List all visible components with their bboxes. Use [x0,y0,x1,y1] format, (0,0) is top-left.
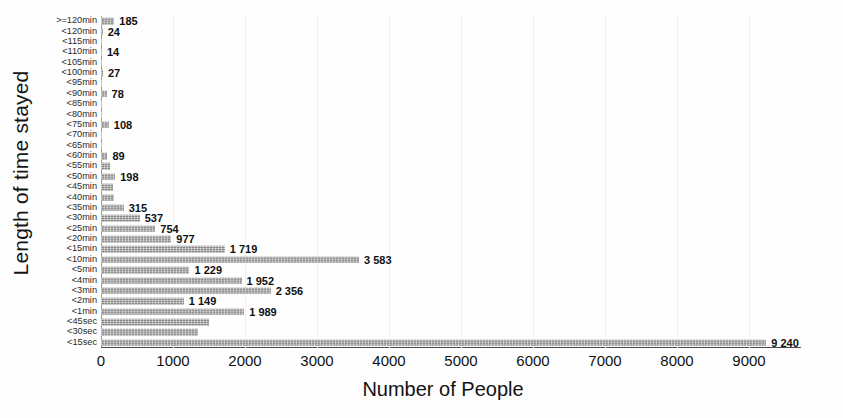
x-axis-tick-label: 6000 [516,352,549,369]
bar-row: <70min [101,130,785,140]
bar-row: <40min [101,192,785,202]
x-axis-tick-label: 7000 [588,352,621,369]
bar [101,18,114,25]
bar-row: <110min14 [101,47,785,57]
bar-row: <1min1 989 [101,307,785,317]
bar-row: <50min198 [101,172,785,182]
y-axis-title-label: Length of time stayed [8,70,32,275]
bar-row: <35min315 [101,203,785,213]
y-axis-tick-label: <45min [67,183,97,192]
y-axis-tick-label: <100min [62,68,98,77]
y-axis-tick-label: <15sec [67,338,97,347]
bar-chart: Length of time stayed >=120min185<120min… [0,0,843,418]
bar-row: <75min108 [101,120,785,130]
x-axis-tick-label: 4000 [372,352,405,369]
bar [101,329,198,336]
bar [101,246,225,253]
y-axis-tick-label: <40min [67,193,97,202]
bar [101,257,359,264]
x-axis-tick-label: 9000 [732,352,765,369]
y-axis-tick-label: <85min [67,100,97,109]
x-axis-tick-label: 8000 [660,352,693,369]
bar [101,277,242,284]
x-axis-tick-label: 0 [97,352,105,369]
bar-value-label: 27 [108,68,120,79]
x-axis-tick-label: 3000 [300,352,333,369]
y-axis-tick-label: <70min [67,131,97,140]
bar-value-label: 89 [112,151,124,162]
y-axis-tick-label: <15min [67,245,97,254]
bar [101,59,102,66]
bar-value-label: 1 719 [230,244,258,255]
y-axis-tick-label: <4min [72,276,97,285]
y-axis-tick-label: <110min [62,48,97,57]
x-axis-title: Number of People [101,378,785,401]
x-axis-title-label: Number of People [362,378,523,400]
y-axis-tick-label: <30sec [67,328,97,337]
bar [101,215,140,222]
bar [101,225,155,232]
y-axis-tick-label: <65min [67,141,97,150]
y-axis-tick-label: <10min [67,255,97,264]
bar-row: <120min24 [101,26,785,36]
bar [101,236,171,243]
bar [101,340,766,347]
bar-row: <15min1 719 [101,244,785,254]
bar [101,101,102,108]
y-axis-tick-label: <80min [67,110,97,119]
y-axis-tick-label: <75min [67,120,97,129]
bar [101,205,124,212]
y-axis-tick-label: <35min [67,203,97,212]
y-axis-tick-label: <2min [72,297,97,306]
bar-row: <95min [101,78,785,88]
bar-value-label: 1 989 [249,306,277,317]
bar-value-label: 14 [107,47,119,58]
bar-row: <30sec [101,327,785,337]
bar [101,132,102,139]
bar-row: <20min977 [101,234,785,244]
bar-value-label: 1 149 [189,296,217,307]
bar-value-label: 185 [119,16,137,27]
bar-row: <2min1 149 [101,296,785,306]
bar [101,319,209,326]
bar-value-label: 3 583 [364,254,392,265]
x-axis-tick-label: 2000 [228,352,261,369]
bar [101,308,244,315]
y-axis-tick-label: <20min [67,234,97,243]
x-axis-tick-label: 1000 [156,352,189,369]
bar-row: <55min [101,161,785,171]
bar-row: <80min [101,109,785,119]
y-axis-tick-label: <55min [67,162,97,171]
bar [101,153,107,160]
bar-row: <115min [101,37,785,47]
bar [101,163,110,170]
bar-row: <5min1 229 [101,265,785,275]
bar-row: <90min78 [101,89,785,99]
bar [101,142,102,149]
bar-row: >=120min185 [101,16,785,26]
bar-value-label: 198 [120,171,138,182]
y-axis-tick-label: <25min [67,224,97,233]
bar [101,288,271,295]
bar-value-label: 108 [114,119,132,130]
y-axis-tick-label: <50min [67,172,97,181]
y-axis-tick-label: <95min [67,79,97,88]
bar-row: <45sec [101,317,785,327]
y-axis-tick-label: <120min [62,27,98,36]
x-axis-tick-label: 5000 [444,352,477,369]
y-axis-tick-label: >=120min [56,17,97,26]
bar [101,80,102,87]
bar [101,91,107,98]
bar [101,194,114,201]
bar-row: <15sec9 240 [101,338,785,348]
bar-row: <30min537 [101,213,785,223]
y-axis-tick-label: <60min [67,151,97,160]
y-axis-tick-label: <5min [72,266,97,275]
y-axis-tick-label: <115min [62,37,97,46]
y-axis-tick-label: <3min [72,286,97,295]
bar [101,39,102,46]
bar-value-label: 24 [108,26,120,37]
bar [101,267,189,274]
bar-row: <65min [101,141,785,151]
bar [101,111,102,118]
